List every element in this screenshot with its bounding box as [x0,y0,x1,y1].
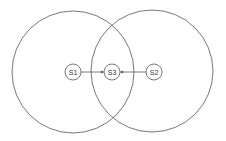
node-label-s3: S3 [108,69,117,76]
node-s1: S1 [65,64,81,80]
node-s2: S2 [146,64,162,80]
node-s3: S3 [104,64,120,80]
node-label-s1: S1 [69,69,78,76]
node-label-s2: S2 [150,69,159,76]
diagram-canvas: S1 S3 S2 [0,0,226,141]
